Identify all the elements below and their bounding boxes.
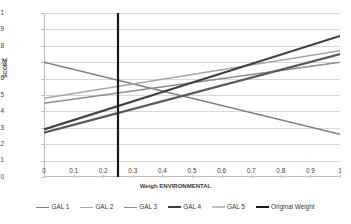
y-tick-label: 0.2 bbox=[0, 141, 4, 147]
x-tick-label: 0.7 bbox=[239, 168, 263, 174]
x-tick-label: 0.8 bbox=[269, 168, 293, 174]
y-tick-label: 0.8 bbox=[0, 43, 4, 49]
y-tick-label: 0.3 bbox=[0, 125, 4, 131]
y-tick-label: 0.9 bbox=[0, 26, 4, 32]
legend-swatch-icon bbox=[80, 207, 93, 208]
x-tick-label: 0.5 bbox=[180, 168, 204, 174]
legend-item-original-weight[interactable]: Original Weight bbox=[256, 203, 315, 211]
legend-swatch-icon bbox=[124, 207, 137, 208]
series-line-gal-4 bbox=[44, 36, 340, 129]
x-tick-label: 0.2 bbox=[91, 168, 115, 174]
legend-item-gal-4[interactable]: GAL 4 bbox=[168, 203, 201, 211]
series-line-gal-1 bbox=[44, 62, 340, 134]
series-line-gal-5 bbox=[44, 54, 340, 133]
legend-item-gal-3[interactable]: GAL 3 bbox=[124, 203, 157, 211]
legend-swatch-icon bbox=[168, 206, 181, 208]
y-tick-label: 0.1 bbox=[0, 157, 4, 163]
legend-swatch-icon bbox=[36, 207, 49, 208]
y-axis-title: SCORE bbox=[2, 58, 8, 78]
y-tick-label: 0 bbox=[0, 174, 4, 180]
legend-swatch-icon bbox=[256, 206, 269, 208]
y-tick-label: 1 bbox=[0, 10, 4, 16]
x-tick-label: 0.3 bbox=[121, 168, 145, 174]
x-tick-label: 0 bbox=[32, 168, 56, 174]
x-tick-label: 0.4 bbox=[150, 168, 174, 174]
series-line-gal-2 bbox=[44, 51, 340, 99]
legend-label: GAL 5 bbox=[227, 203, 245, 211]
x-tick-label: 1 bbox=[328, 168, 351, 174]
legend-label: GAL 2 bbox=[95, 203, 113, 211]
legend-item-gal-2[interactable]: GAL 2 bbox=[80, 203, 113, 211]
legend-item-gal-1[interactable]: GAL 1 bbox=[36, 203, 69, 211]
y-tick-label: 0.5 bbox=[0, 92, 4, 98]
legend-swatch-icon bbox=[212, 206, 225, 208]
x-tick-label: 0.9 bbox=[298, 168, 322, 174]
x-axis-title: Weigh ENVIRONMENTAL bbox=[0, 183, 351, 190]
chart-legend: GAL 1GAL 2GAL 3GAL 4GAL 5Original Weight bbox=[0, 203, 351, 211]
legend-label: GAL 3 bbox=[139, 203, 157, 211]
series-lines bbox=[44, 13, 340, 177]
y-tick-label: 0.4 bbox=[0, 108, 4, 114]
chart-container: 10.90.80.70.60.50.40.30.20.10 00.10.20.3… bbox=[0, 0, 351, 224]
legend-label: GAL 4 bbox=[183, 203, 201, 211]
legend-label: Original Weight bbox=[271, 203, 315, 211]
plot-area bbox=[44, 13, 340, 177]
legend-label: GAL 1 bbox=[51, 203, 69, 211]
legend-item-gal-5[interactable]: GAL 5 bbox=[212, 203, 245, 211]
x-tick-mark bbox=[340, 175, 341, 178]
x-tick-label: 0.1 bbox=[62, 168, 86, 174]
x-tick-label: 0.6 bbox=[210, 168, 234, 174]
